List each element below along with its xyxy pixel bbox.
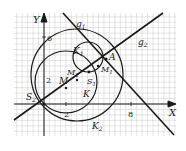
label-A: A xyxy=(108,52,116,62)
x-axis-label: X xyxy=(168,107,177,118)
label-g1: g1 xyxy=(76,19,86,30)
line-g1 xyxy=(63,13,174,135)
point-S1 xyxy=(88,71,91,74)
label-K: K xyxy=(82,89,91,99)
y-axis-label: Y xyxy=(33,14,41,25)
point-A xyxy=(104,57,107,60)
label-S1: S1 xyxy=(87,77,96,87)
x-tick-8: 8 xyxy=(128,110,133,119)
label-M2: M2 xyxy=(66,68,79,78)
y-axis-arrow-icon xyxy=(41,13,47,22)
point-S2 xyxy=(42,102,45,105)
y-tick-2: 2 xyxy=(46,76,51,85)
y-tick-6: 6 xyxy=(47,34,52,43)
label-K1: K1 xyxy=(72,46,84,57)
point-M1 xyxy=(97,65,99,67)
point-M2 xyxy=(76,79,78,81)
label-K2: K2 xyxy=(91,121,103,132)
x-tick-2: 2 xyxy=(64,110,69,119)
label-M: M xyxy=(58,76,69,86)
point-M xyxy=(65,87,67,89)
geometry-figure: Y X 6 2 2 8 g1 g2 K1 K K2 A S2 S1 M M2 M… xyxy=(0,0,186,151)
